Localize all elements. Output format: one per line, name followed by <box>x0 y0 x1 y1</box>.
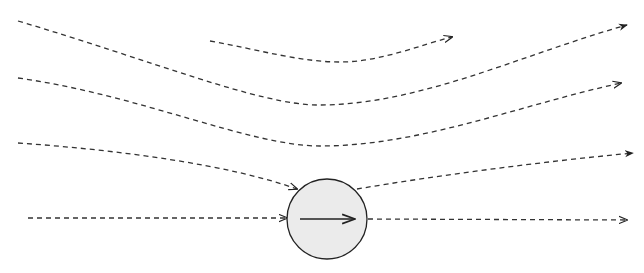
streamline-3-out <box>357 153 633 189</box>
streamline-3-in <box>18 143 297 189</box>
streamline-1 <box>18 21 627 105</box>
streamline-short <box>210 37 452 62</box>
streamline-4-out <box>368 219 627 220</box>
flow-diagram <box>0 0 644 273</box>
streamline-2 <box>18 78 621 146</box>
